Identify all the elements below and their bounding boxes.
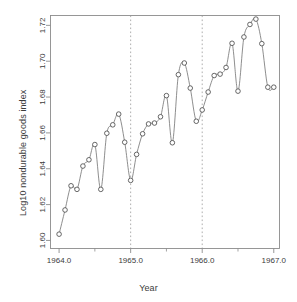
x-tick-label-2: 1966.0 (190, 256, 215, 265)
data-point-10 (116, 112, 121, 117)
data-point-23 (194, 119, 199, 124)
y-axis-title: Log10 nondurable goods index (18, 90, 28, 216)
data-point-34 (260, 41, 265, 46)
data-point-2 (69, 183, 74, 188)
data-point-36 (271, 85, 276, 90)
data-point-4 (81, 164, 86, 169)
data-point-14 (140, 131, 145, 136)
data-point-20 (176, 72, 181, 77)
y-tick-label-4: 1.68 (38, 89, 47, 105)
data-point-13 (134, 152, 139, 157)
data-point-17 (158, 114, 163, 119)
data-point-11 (122, 140, 127, 145)
data-point-32 (248, 22, 253, 27)
data-point-6 (93, 142, 98, 147)
x-tick-label-1: 1965.0 (118, 256, 143, 265)
x-axis-title: Year (0, 283, 297, 293)
plot-background (0, 0, 297, 302)
data-point-7 (99, 187, 104, 192)
data-point-19 (170, 140, 175, 145)
data-point-18 (164, 93, 169, 98)
y-tick-label-5: 1.70 (38, 53, 47, 69)
data-point-3 (75, 187, 80, 192)
data-point-0 (57, 232, 62, 237)
data-point-22 (188, 86, 193, 91)
data-point-21 (182, 61, 187, 66)
data-point-30 (236, 89, 241, 94)
y-tick-label-2: 1.64 (38, 160, 47, 176)
data-point-31 (242, 35, 247, 40)
data-point-1 (63, 208, 68, 213)
y-tick-label-0: 1.60 (38, 232, 47, 248)
data-point-29 (230, 41, 235, 46)
data-point-25 (206, 90, 211, 95)
y-tick-label-1: 1.62 (38, 196, 47, 212)
x-tick-label-0: 1964.0 (47, 256, 72, 265)
y-tick-label-6: 1.72 (38, 17, 47, 33)
data-point-26 (212, 73, 217, 78)
chart-figure: 1.601.621.641.661.681.701.721964.01965.0… (0, 0, 297, 302)
data-point-9 (110, 123, 115, 128)
y-tick-label-3: 1.66 (38, 125, 47, 141)
data-point-16 (152, 121, 157, 126)
data-point-28 (224, 65, 229, 70)
data-point-12 (128, 178, 133, 183)
data-point-35 (266, 85, 271, 90)
nondurable-goods-index-plot: 1.601.621.641.661.681.701.721964.01965.0… (0, 0, 297, 302)
data-point-15 (146, 122, 151, 127)
data-point-5 (87, 157, 92, 162)
data-point-33 (254, 17, 259, 22)
data-point-27 (218, 72, 223, 77)
data-point-8 (105, 131, 110, 136)
x-tick-label-3: 1967.0 (262, 256, 287, 265)
data-point-24 (200, 108, 205, 113)
